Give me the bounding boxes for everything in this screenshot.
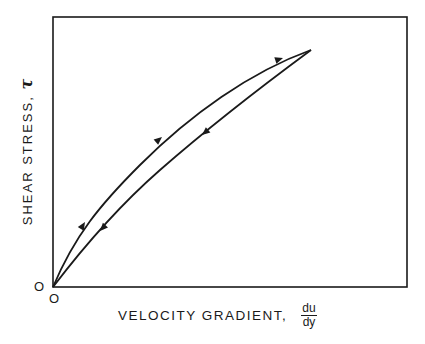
y-axis-label: SHEAR STRESS, τ [17, 79, 36, 225]
unloading-curve [53, 50, 311, 287]
x-axis-text: VELOCITY GRADIENT, [118, 308, 287, 323]
tau-symbol: τ [17, 79, 36, 90]
arrow-down-icon [97, 127, 210, 233]
arrow-up-icon [78, 55, 284, 231]
fraction-numerator: du [301, 302, 316, 316]
origin-label-y: O [34, 279, 44, 294]
fraction-denominator: dy [303, 316, 316, 329]
x-axis-label: VELOCITY GRADIENT, du dy [118, 302, 317, 329]
loading-curve [53, 50, 311, 287]
plot-frame [53, 17, 407, 287]
origin-label-x: O [49, 291, 59, 306]
du-dy-fraction: du dy [301, 302, 316, 329]
hysteresis-diagram [0, 0, 425, 344]
